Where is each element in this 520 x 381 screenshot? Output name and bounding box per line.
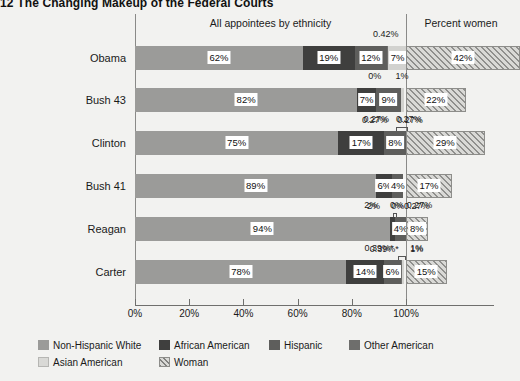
callout-above-reagan-0: 2% — [364, 200, 377, 210]
legend-label-african-american: African American — [174, 340, 250, 351]
callout-above-bush-43-0: 0% — [368, 71, 381, 81]
legend-swatch-other-american — [349, 340, 360, 350]
x-tick-80 — [352, 299, 353, 305]
bar-value-bush-41-hispanic: 4% — [389, 179, 407, 192]
woman-value-bush-43: 22% — [424, 93, 447, 106]
callout-above-obama-0: 0.42% — [373, 29, 399, 39]
x-tick-20 — [189, 299, 190, 305]
legend-item-woman: Woman — [159, 356, 208, 370]
callout-above-bush-43-1: 1% — [395, 71, 408, 81]
bar-value-clinton-white: 75% — [225, 136, 248, 149]
header-percent-women: Percent women — [406, 17, 516, 29]
bar-value-clinton-african: 17% — [350, 136, 373, 149]
bar-value-obama-african: 19% — [317, 51, 340, 64]
column-headers: All appointees by ethnicity Percent wome… — [135, 14, 494, 40]
bar-segment-bush-43-asian — [401, 88, 404, 112]
bar-value-bush-43-white: 82% — [235, 93, 258, 106]
row-label-bush-43: Bush 43 — [0, 88, 126, 112]
leader-bracket-reagan-0 — [393, 213, 397, 217]
woman-value-bush-41: 17% — [418, 179, 441, 192]
bar-value-carter-hispanic: 6% — [384, 265, 402, 278]
legend-swatch-asian-american — [38, 357, 49, 367]
legend-label-non-hispanic-white: Non-Hispanic White — [53, 340, 141, 351]
chart-title-number: 12 — [0, 0, 13, 10]
legend-item-other-american: Other American — [349, 339, 433, 353]
legend-swatch-african-american — [159, 340, 170, 350]
legend-item-asian-american: Asian American — [38, 356, 122, 370]
legend-row-1: Non-Hispanic White African American Hisp… — [38, 339, 494, 356]
callout-above-reagan-2: 0.27% — [407, 200, 433, 210]
woman-value-reagan: 8% — [408, 222, 426, 235]
chart-legend: Non-Hispanic White African American Hisp… — [38, 339, 494, 373]
x-tick-label-100: 100% — [393, 308, 419, 319]
bar-value-carter-african: 14% — [354, 265, 377, 278]
woman-value-carter: 15% — [415, 265, 438, 278]
legend-label-asian-american: Asian American — [53, 357, 122, 368]
row-label-carter: Carter — [0, 260, 126, 284]
legend-swatch-non-hispanic-white — [38, 340, 49, 350]
legend-swatch-hispanic — [269, 340, 280, 350]
bar-value-bush-43-hispanic: 9% — [380, 93, 398, 106]
x-tick-label-60: 60% — [288, 308, 308, 319]
bar-value-bush-41-white: 89% — [244, 179, 267, 192]
woman-value-obama: 42% — [451, 51, 474, 64]
legend-label-other-american: Other American — [364, 340, 433, 351]
x-tick-60 — [298, 299, 299, 305]
legend-item-hispanic: Hispanic — [269, 339, 322, 353]
row-label-reagan: Reagan — [0, 217, 126, 241]
x-tick-40 — [243, 299, 244, 305]
leader-bracket-clinton-0 — [396, 127, 408, 131]
x-tick-label-40: 40% — [233, 308, 253, 319]
callout-above-clinton-0: 0.27% — [363, 114, 389, 124]
bar-value-clinton-hispanic: 8% — [386, 136, 404, 149]
x-tick-100 — [406, 299, 407, 305]
row-label-obama: Obama — [0, 46, 126, 70]
bar-value-carter-white: 78% — [229, 265, 252, 278]
callout-above-carter-0: 0.39%* — [364, 243, 393, 253]
x-tick-label-20: 20% — [179, 308, 199, 319]
bar-value-reagan-white: 94% — [251, 222, 274, 235]
x-tick-label-80: 80% — [342, 308, 362, 319]
bar-segment-carter-asian — [402, 260, 405, 284]
leader-bracket-carter-0 — [398, 256, 406, 260]
x-tick-label-0: 0% — [128, 308, 142, 319]
callout-above-reagan-1: 0% — [390, 200, 403, 210]
bar-value-obama-white: 62% — [207, 51, 230, 64]
legend-swatch-woman — [159, 357, 170, 367]
x-tick-0 — [135, 299, 136, 305]
callout-above-carter-1: 1% — [410, 243, 423, 253]
header-all-appointees-by-ethnicity: All appointees by ethnicity — [135, 17, 406, 29]
row-label-clinton: Clinton — [0, 131, 126, 155]
bar-value-obama-hispanic: 12% — [359, 51, 382, 64]
bar-value-bush-43-african: 7% — [358, 93, 376, 106]
x-axis-line — [135, 305, 494, 306]
callout-above-clinton-1: 0.27% — [396, 114, 422, 124]
chart-title-text: The Changing Makeup of the Federal Court… — [17, 0, 273, 10]
legend-row-2: Asian American Woman — [38, 356, 494, 373]
woman-value-clinton: 29% — [434, 136, 457, 149]
legend-label-woman: Woman — [174, 357, 208, 368]
legend-item-non-hispanic-white: Non-Hispanic White — [38, 339, 141, 353]
row-label-bush-41: Bush 41 — [0, 174, 126, 198]
legend-item-african-american: African American — [159, 339, 250, 353]
bar-value-obama-asian: 7% — [389, 51, 407, 64]
chart-title-bar: 12The Changing Makeup of the Federal Cou… — [0, 0, 494, 12]
legend-label-hispanic: Hispanic — [284, 340, 322, 351]
